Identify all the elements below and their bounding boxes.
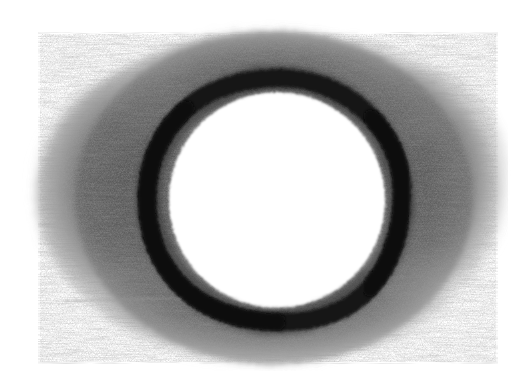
feather-right: [508, 0, 524, 387]
feather-top: [0, 0, 524, 16]
feather-bottom: [0, 371, 524, 387]
inner-hole-core: [177, 100, 377, 300]
charcoal-ring-illustration: [0, 0, 524, 387]
feather-left: [0, 0, 14, 387]
drawing-canvas: [0, 0, 524, 387]
